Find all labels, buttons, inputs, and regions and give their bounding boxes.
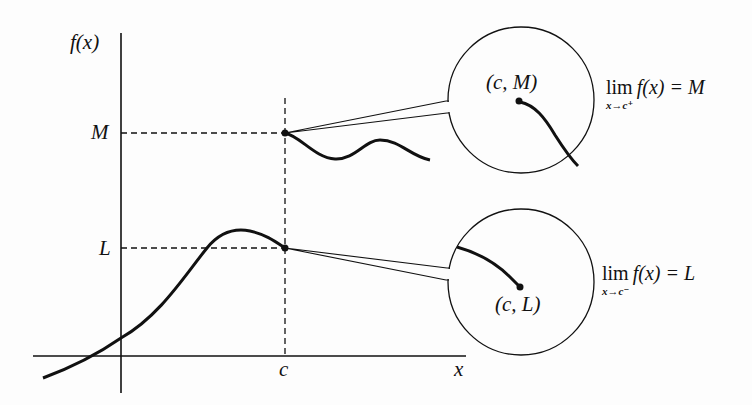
upper-zoomed-curve <box>520 102 578 166</box>
y-axis-label: f(x) <box>70 30 99 55</box>
upper-limit-rhs: f(x) = M <box>637 76 705 98</box>
curve-right-piece <box>285 133 430 160</box>
upper-point-label: (c, M) <box>486 70 537 95</box>
x-axis-label: x <box>454 357 463 382</box>
diagram-graphics <box>0 0 752 405</box>
y-tick-m: M <box>91 120 109 145</box>
y-tick-l: L <box>99 236 111 261</box>
lower-limit-rhs: f(x) = L <box>633 262 695 284</box>
lower-magnifier-circle <box>448 209 594 355</box>
upper-limit-subscript: x→c⁺ <box>606 99 633 112</box>
upper-limit-word: lim <box>606 76 633 98</box>
lower-limit-word: lim <box>602 262 629 284</box>
upper-limit-expression: lim f(x) = M x→c⁺ <box>606 76 705 99</box>
lower-limit-subscript: x→c⁻ <box>602 285 629 298</box>
lower-zoomed-curve <box>457 247 519 286</box>
lower-callout-wedge <box>285 248 447 280</box>
upper-zoomed-point <box>516 98 523 105</box>
lower-limit-expression: lim f(x) = L x→c⁻ <box>602 262 695 285</box>
upper-callout-wedge <box>285 101 447 133</box>
x-tick-c: c <box>279 357 288 382</box>
lower-point-label: (c, L) <box>495 292 541 317</box>
limit-diagram: f(x) M L c x (c, M) (c, L) lim f(x) = M … <box>0 0 752 405</box>
lower-zoomed-point <box>517 284 524 291</box>
